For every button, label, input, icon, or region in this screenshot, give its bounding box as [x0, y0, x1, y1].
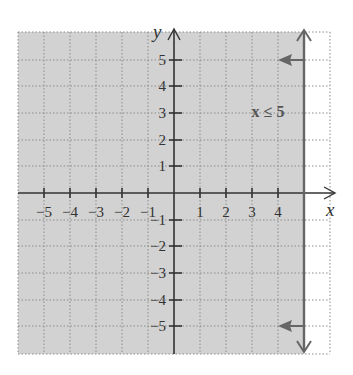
x-tick-label: 2	[222, 204, 230, 220]
y-axis-label: y	[151, 21, 162, 42]
y-tick-label: −1	[150, 212, 166, 228]
x-tick-label: 3	[248, 204, 256, 220]
y-tick-label: 1	[159, 158, 167, 174]
y-tick-label: −4	[150, 292, 166, 308]
y-tick-label: −2	[150, 238, 166, 254]
y-tick-label: −3	[150, 265, 166, 281]
coordinate-plane: −5 −4 −3 −2 −1 1 2 3 4 5 4 3 2 1 −1 −2 −…	[0, 0, 353, 375]
y-tick-label: 2	[159, 132, 167, 148]
x-tick-label: −4	[62, 204, 78, 220]
y-tick-label: 5	[159, 52, 167, 68]
x-tick-label: 4	[274, 204, 282, 220]
inequality-label: x ≤ 5	[252, 103, 285, 120]
x-tick-label: −5	[36, 204, 52, 220]
x-tick-label: −3	[88, 204, 104, 220]
x-tick-label: −2	[114, 204, 130, 220]
y-tick-label: 3	[159, 105, 167, 121]
x-axis-label: x	[325, 199, 335, 220]
x-tick-label: 1	[196, 204, 204, 220]
y-tick-label: −5	[150, 318, 166, 334]
y-tick-label: 4	[159, 78, 167, 94]
